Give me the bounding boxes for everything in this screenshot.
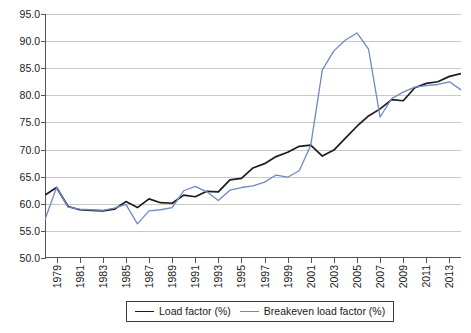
x-tick-mark: [103, 258, 104, 263]
x-tick-label: 1985: [120, 265, 132, 288]
x-tick-label: 1979: [51, 265, 63, 288]
x-tick-label: 2001: [305, 265, 317, 288]
x-axis-ticks: [45, 258, 461, 264]
x-tick-mark: [265, 258, 266, 263]
x-tick-label: 1987: [143, 265, 155, 288]
x-tick-mark: [57, 258, 58, 263]
chart-legend: Load factor (%)Breakeven load factor (%): [126, 301, 394, 322]
x-tick-mark: [80, 258, 81, 263]
x-tick-label: 2011: [420, 265, 432, 288]
x-tick-mark: [403, 258, 404, 263]
y-tick-label: 60.0: [20, 198, 40, 210]
y-tick-label: 95.0: [20, 8, 40, 20]
x-tick-label: 1991: [189, 265, 201, 288]
x-axis: 1979198119831985198719891991199319951997…: [45, 265, 461, 305]
x-tick-label: 1999: [282, 265, 294, 288]
x-tick-mark: [334, 258, 335, 263]
x-tick-label: 1983: [97, 265, 109, 288]
legend-swatch-icon: [135, 311, 154, 312]
x-tick-mark: [426, 258, 427, 263]
x-tick-label: 1989: [166, 265, 178, 288]
legend-item: Breakeven load factor (%): [240, 305, 385, 317]
x-tick-label: 2005: [351, 265, 363, 288]
x-tick-mark: [380, 258, 381, 263]
y-axis: 95.090.085.080.075.070.065.060.055.050.0: [0, 14, 40, 258]
x-tick-mark: [311, 258, 312, 263]
x-tick-mark: [357, 258, 358, 263]
x-tick-mark: [288, 258, 289, 263]
series-line: [45, 33, 461, 224]
y-tick-label: 90.0: [20, 35, 40, 47]
x-tick-mark: [126, 258, 127, 263]
legend-swatch-icon: [240, 311, 259, 312]
legend-label: Load factor (%): [159, 305, 231, 317]
legend-item: Load factor (%): [135, 305, 231, 317]
x-tick-mark: [218, 258, 219, 263]
x-tick-label: 2007: [374, 265, 386, 288]
y-tick-label: 80.0: [20, 89, 40, 101]
x-tick-mark: [449, 258, 450, 263]
x-tick-mark: [149, 258, 150, 263]
x-tick-label: 2013: [443, 265, 455, 288]
y-tick-label: 75.0: [20, 116, 40, 128]
y-tick-label: 85.0: [20, 62, 40, 74]
y-tick-label: 70.0: [20, 144, 40, 156]
legend-label: Breakeven load factor (%): [264, 305, 385, 317]
x-tick-mark: [195, 258, 196, 263]
x-tick-label: 1997: [259, 265, 271, 288]
y-tick-label: 50.0: [20, 252, 40, 264]
y-tick-label: 65.0: [20, 171, 40, 183]
x-tick-label: 2003: [328, 265, 340, 288]
x-tick-mark: [241, 258, 242, 263]
x-tick-label: 1981: [74, 265, 86, 288]
line-chart: 95.090.085.080.075.070.065.060.055.050.0…: [0, 0, 471, 333]
x-tick-label: 1993: [212, 265, 224, 288]
series-layer: [45, 14, 461, 258]
x-tick-label: 1995: [235, 265, 247, 288]
y-tick-label: 55.0: [20, 225, 40, 237]
x-tick-label: 2009: [397, 265, 409, 288]
x-tick-mark: [172, 258, 173, 263]
